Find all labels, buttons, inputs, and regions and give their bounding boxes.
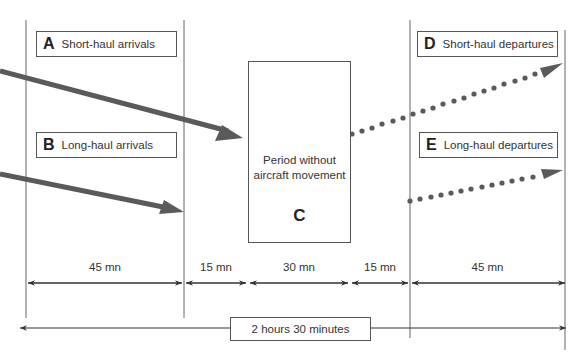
box-short-haul-arrivals: A Short-haul arrivals — [36, 31, 177, 57]
duration-label: 45 mn — [26, 261, 184, 273]
box-label: Short-haul departures — [443, 38, 554, 50]
period-label: Period without aircraft movement — [249, 153, 350, 183]
total-duration-label: 2 hours 30 minutes — [230, 317, 371, 341]
box-letter: D — [424, 35, 436, 53]
period-label-line2: aircraft movement — [249, 168, 350, 183]
box-long-haul-arrivals: B Long-haul arrivals — [36, 132, 177, 158]
box-letter: C — [249, 206, 350, 226]
duration-label: 30 mn — [248, 261, 350, 273]
box-label: Long-haul departures — [444, 139, 553, 151]
box-letter: E — [426, 136, 437, 154]
period-label-line1: Period without — [249, 153, 350, 168]
box-short-haul-departures: D Short-haul departures — [417, 31, 558, 57]
long-haul-departures-arrow — [407, 169, 563, 204]
box-label: Short-haul arrivals — [62, 38, 155, 50]
long-haul-arrivals-arrow — [0, 174, 184, 214]
duration-label: 15 mn — [184, 261, 248, 273]
box-label: Long-haul arrivals — [62, 139, 153, 151]
short-haul-arrivals-arrow — [0, 71, 243, 141]
short-haul-departures-arrow — [349, 63, 563, 137]
duration-label: 15 mn — [350, 261, 410, 273]
duration-label: 45 mn — [410, 261, 565, 273]
box-long-haul-departures: E Long-haul departures — [419, 132, 558, 158]
box-letter: A — [43, 35, 55, 53]
box-letter: B — [43, 136, 55, 154]
box-period-without-movement: Period without aircraft movement C — [248, 61, 351, 243]
